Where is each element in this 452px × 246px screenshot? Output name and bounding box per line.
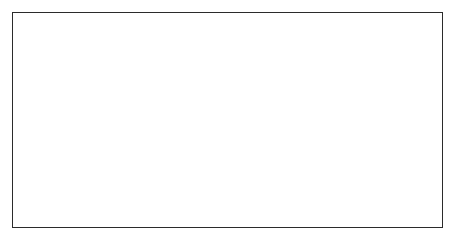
chart-figure: 121086420-2 '89'92'95'98 Year Year-over-… bbox=[0, 0, 452, 246]
figure-outer-frame bbox=[12, 12, 443, 228]
